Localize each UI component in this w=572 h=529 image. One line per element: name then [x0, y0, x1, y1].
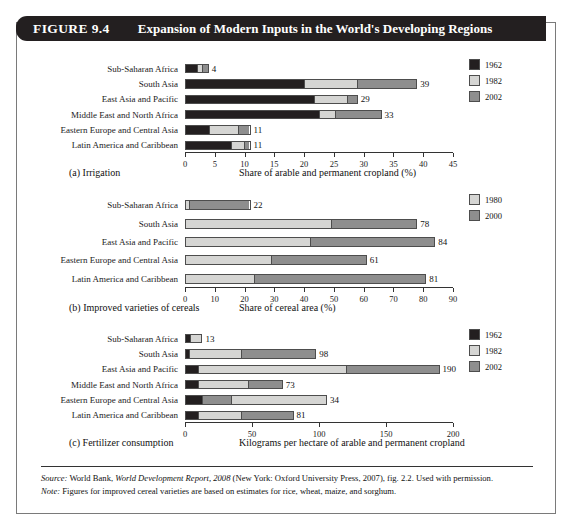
bar-segment-light	[231, 142, 244, 150]
category-label: Latin America and Caribbean	[72, 274, 178, 284]
x-tick-a-3	[274, 153, 275, 157]
bar-segment-dark	[186, 126, 209, 134]
stacked-bar[interactable]: 61	[185, 255, 367, 265]
x-tick-b-9	[453, 288, 454, 292]
bar-segment-light	[319, 111, 334, 119]
bar-value-label: 11	[254, 140, 263, 150]
stacked-bar[interactable]: 13	[185, 334, 202, 344]
legend-label: 1962	[485, 330, 502, 340]
legend-item[interactable]: 1962	[469, 329, 502, 340]
stacked-bar[interactable]: 11	[185, 125, 251, 135]
figure-footer: Source: World Bank, World Development Re…	[41, 466, 533, 498]
figure-container: FIGURE 9.4 Expansion of Modern Inputs in…	[16, 22, 556, 514]
bar-segment-dark	[186, 381, 198, 389]
note-label: Note:	[41, 486, 60, 496]
legend-item[interactable]: 1980	[469, 194, 502, 205]
category-label: Eastern Europe and Central Asia	[61, 395, 178, 405]
bar-segment-light	[209, 126, 238, 134]
stacked-bar[interactable]: 98	[185, 349, 316, 359]
bar-value-label: 29	[361, 94, 370, 104]
category-label: South Asia	[139, 79, 178, 89]
panel-caption-c: (c) Fertilizer consumptionKilograms per …	[17, 437, 557, 451]
x-tick-b-1	[215, 288, 216, 292]
source-label: Source:	[41, 473, 67, 483]
bar-segment-light	[198, 412, 241, 420]
legend-swatch-icon	[469, 361, 480, 372]
bar-segment-light	[186, 238, 310, 246]
bar-segment-dark	[186, 65, 197, 73]
stacked-bar[interactable]: 34	[185, 395, 327, 405]
legend-item[interactable]: 2000	[469, 210, 502, 221]
bar-rows-b: Sub-Saharan Africa22South Asia78East Asi…	[185, 196, 453, 287]
bar-segment-dark	[186, 111, 319, 119]
legend-a: 196219822002	[469, 59, 502, 102]
figure-title: Expansion of Modern Inputs in the World'…	[138, 21, 492, 37]
panel-caption-left: (a) Irrigation	[69, 167, 120, 178]
bar-segment-mid	[357, 80, 416, 88]
bar-row: Eastern Europe and Central Asia61	[185, 251, 453, 269]
stacked-bar[interactable]: 39	[185, 79, 417, 89]
bar-row: Sub-Saharan Africa13	[185, 331, 453, 346]
x-tick-c-0	[185, 423, 186, 427]
bar-segment-light	[314, 96, 347, 104]
x-tick-a-0	[185, 153, 186, 157]
x-tick-c-4	[453, 423, 454, 427]
bar-segment-mid	[346, 366, 439, 374]
stacked-bar[interactable]: 81	[185, 411, 294, 421]
x-tick-b-8	[423, 288, 424, 292]
panel-caption-a: (a) IrrigationShare of arable and perman…	[17, 167, 557, 181]
x-tick-a-4	[304, 153, 305, 157]
stacked-bar[interactable]: 11	[185, 141, 251, 151]
bar-segment-light	[190, 335, 202, 343]
stacked-bar[interactable]: 190	[185, 365, 440, 375]
x-tick-a-9	[453, 153, 454, 157]
legend-label: 1982	[485, 76, 502, 86]
bar-row: Eastern Europe and Central Asia34	[185, 392, 453, 407]
bar-row: Middle East and North Africa33	[185, 107, 453, 122]
bar-row: Latin America and Caribbean81	[185, 408, 453, 423]
bar-segment-mid	[248, 381, 282, 389]
legend-item[interactable]: 2002	[469, 361, 502, 372]
legend-b: 19802000	[469, 194, 502, 221]
panel-caption-b: (b) Improved varieties of cerealsShare o…	[17, 302, 557, 316]
stacked-bar[interactable]: 22	[185, 200, 251, 210]
bar-row: East Asia and Pacific29	[185, 92, 453, 107]
bar-segment-dark	[186, 80, 304, 88]
stacked-bar[interactable]: 4	[185, 64, 209, 74]
stacked-bar[interactable]: 81	[185, 274, 426, 284]
legend-item[interactable]: 2002	[469, 91, 502, 102]
source-italic-title: World Development Report, 2008	[115, 473, 230, 483]
bar-segment-light	[304, 80, 357, 88]
x-tick-c-1	[252, 423, 253, 427]
panel-axis-title: Kilograms per hectare of arable and perm…	[239, 437, 465, 448]
bar-value-label: 33	[385, 110, 394, 120]
bar-segment-dark	[186, 142, 231, 150]
panel-caption-left: (c) Fertilizer consumption	[69, 437, 173, 448]
stacked-bar[interactable]: 33	[185, 110, 382, 120]
bar-segment-mid	[310, 238, 434, 246]
bar-value-label: 34	[330, 395, 339, 405]
plot-area-c: 050100150200Sub-Saharan Africa13South As…	[185, 331, 453, 423]
x-tick-b-6	[364, 288, 365, 292]
bar-value-label: 81	[429, 274, 438, 284]
stacked-bar[interactable]: 84	[185, 237, 435, 247]
legend-item[interactable]: 1962	[469, 59, 502, 70]
panel-axis-title: Share of cereal area (%)	[239, 302, 336, 313]
bar-segment-mid	[271, 256, 365, 264]
bar-value-label: 73	[286, 380, 295, 390]
x-tick-a-6	[364, 153, 365, 157]
figure-page: FIGURE 9.4 Expansion of Modern Inputs in…	[0, 0, 572, 529]
bar-value-label: 22	[254, 200, 263, 210]
bar-value-label: 81	[297, 410, 306, 420]
bar-value-label: 39	[420, 79, 429, 89]
legend-item[interactable]: 1982	[469, 345, 502, 356]
bar-row: Latin America and Caribbean81	[185, 270, 453, 288]
stacked-bar[interactable]: 73	[185, 380, 283, 390]
x-tick-a-7	[393, 153, 394, 157]
bar-value-label: 78	[420, 219, 429, 229]
stacked-bar[interactable]: 78	[185, 219, 417, 229]
stacked-bar[interactable]: 29	[185, 95, 358, 105]
bar-row: Latin America and Caribbean11	[185, 138, 453, 153]
legend-item[interactable]: 1982	[469, 75, 502, 86]
bar-row: Middle East and North Africa73	[185, 377, 453, 392]
